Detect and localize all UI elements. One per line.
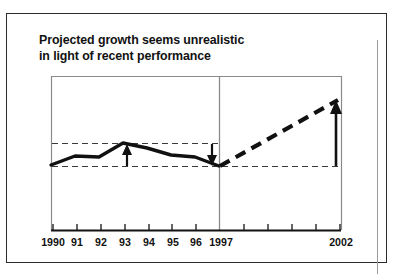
projected-gain-arrow-2002-icon [330,100,342,166]
x-tick-label-95: 95 [167,236,179,248]
x-tick-label-1997: 1997 [209,236,233,248]
x-tick-label-94: 94 [143,236,155,248]
series-actual-performance [51,143,219,166]
plot-area [0,0,398,274]
x-tick-label-1990: 1990 [41,236,65,248]
x-tick-label-91: 91 [71,236,83,248]
plot-frame [52,77,342,231]
rise-arrow-1993-icon [122,144,132,166]
series-projected-growth [220,100,338,166]
x-axis-labels: 1990 91 92 93 94 95 96 1997 2002 [0,236,398,254]
x-tick-label-96: 96 [190,236,202,248]
x-tick-label-93: 93 [119,236,131,248]
x-axis-ticks [53,224,340,230]
figure-root: Projected growth seems unrealistic in li… [0,0,398,274]
x-tick-label-2002: 2002 [329,236,353,248]
x-tick-label-92: 92 [95,236,107,248]
chart-svg [0,0,398,274]
